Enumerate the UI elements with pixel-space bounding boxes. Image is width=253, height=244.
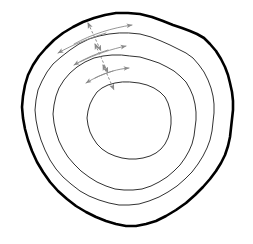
radial-arrow-middle <box>95 44 108 73</box>
figure-root <box>0 0 253 244</box>
contour-ring-3 <box>53 55 196 190</box>
flow-arrow-ring2-rightward <box>80 46 126 62</box>
radial-arrow-outer <box>88 23 101 51</box>
contour-diagram-svg <box>0 0 253 244</box>
flow-arrow-ring3-rightward <box>95 68 129 78</box>
flow-arrow-ring3-leftward <box>86 71 113 83</box>
contour-ring-4-innermost <box>87 82 171 159</box>
contour-ring-2 <box>35 33 214 205</box>
